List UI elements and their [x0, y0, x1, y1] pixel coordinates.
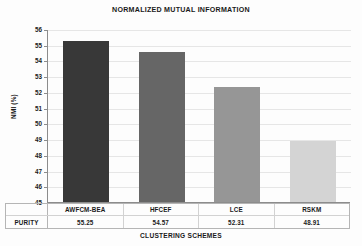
table-value-cell: 54.57: [124, 216, 200, 228]
bar-rskm: [290, 141, 336, 202]
table-header-cell: LCE: [199, 204, 275, 215]
y-axis-label: NMI (%): [10, 77, 17, 137]
bar-awfcm-bea: [63, 41, 109, 202]
table-corner-blank: [6, 204, 48, 215]
gridline: [48, 30, 351, 31]
y-tick-label: 48: [20, 152, 42, 159]
x-axis-label: CLUSTERING SCHEMES: [0, 232, 362, 239]
y-tick-label: 47: [20, 168, 42, 175]
y-tick-label: 46: [20, 183, 42, 190]
y-tick-label: 56: [20, 26, 42, 33]
table-value-cell: 48.91: [275, 216, 350, 228]
y-tick-label: 55: [20, 42, 42, 49]
table-header-cell: HFCEF: [124, 204, 200, 215]
chart-title: NORMALIZED MUTUAL INFORMATION: [0, 6, 362, 14]
y-tick-label: 52: [20, 89, 42, 96]
y-tick-label: 49: [20, 136, 42, 143]
table-row-label: PURITY: [6, 216, 48, 228]
table-row: AWFCM-BEA HFCEF LCE RSKM: [6, 204, 349, 216]
table-value-cell: 52.31: [199, 216, 275, 228]
table-header-cell: AWFCM-BEA: [48, 204, 124, 215]
bar-hfcef: [139, 52, 185, 203]
y-tick-label: 51: [20, 105, 42, 112]
table-value-cell: 55.25: [48, 216, 124, 228]
table-row: PURITY 55.25 54.57 52.31 48.91: [6, 216, 349, 228]
purity-table: AWFCM-BEA HFCEF LCE RSKM PURITY 55.25 54…: [5, 203, 350, 229]
bar-lce: [214, 87, 260, 202]
y-tick-label: 54: [20, 57, 42, 64]
nmi-bar-chart: NORMALIZED MUTUAL INFORMATION NMI (%) 56…: [0, 0, 362, 246]
table-header-cell: RSKM: [275, 204, 350, 215]
y-tick-label: 50: [20, 120, 42, 127]
plot-area: [47, 30, 350, 203]
y-tick-label: 53: [20, 73, 42, 80]
